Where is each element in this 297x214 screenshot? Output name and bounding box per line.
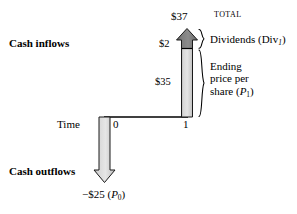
cash-inflows-label: Cash inflows (9, 37, 69, 49)
outflow-value-suffix: ) (122, 188, 126, 200)
total-header-label: TOTAL (214, 11, 241, 20)
ending-price-value-label: $35 (155, 76, 171, 88)
ending-price-line-3: share (P1) (210, 85, 254, 97)
dividend-value-label: $2 (159, 38, 170, 50)
dividends-annotation: Dividends (Div1) (210, 33, 286, 45)
outflow-value-symbol: P (111, 188, 118, 200)
ending-price-line-3-close: ) (250, 85, 254, 97)
ending-price-symbol-sub: 1 (246, 90, 250, 99)
tick-label-1: 1 (183, 118, 189, 130)
dividends-annotation-text: Dividends (Div (210, 33, 278, 45)
cash-outflows-label: Cash outflows (9, 165, 75, 177)
ending-price-annotation: Ending price per share (P1) (210, 60, 254, 97)
cash-flow-timeline-diagram: $37 TOTAL Cash inflows Cash outflows $2 … (0, 0, 297, 214)
ending-price-brace (199, 50, 204, 117)
outflow-value-prefix: −$25 ( (82, 188, 111, 200)
time-axis-label: Time (57, 118, 80, 130)
dividends-brace (199, 30, 204, 49)
outflow-value-sub: 0 (118, 193, 122, 202)
dividend-arrow (177, 29, 198, 49)
cash-outflow-arrow (94, 117, 115, 183)
ending-price-line-1: Ending (210, 60, 254, 72)
outflow-value-label: −$25 (P0) (82, 188, 125, 200)
total-value-label: $37 (171, 10, 188, 22)
ending-price-bar (182, 49, 193, 118)
dividends-annotation-close: ) (282, 33, 286, 45)
ending-price-line-3-text: share ( (210, 85, 240, 97)
ending-price-line-2: price per (210, 72, 254, 84)
tick-label-0: 0 (113, 118, 119, 130)
